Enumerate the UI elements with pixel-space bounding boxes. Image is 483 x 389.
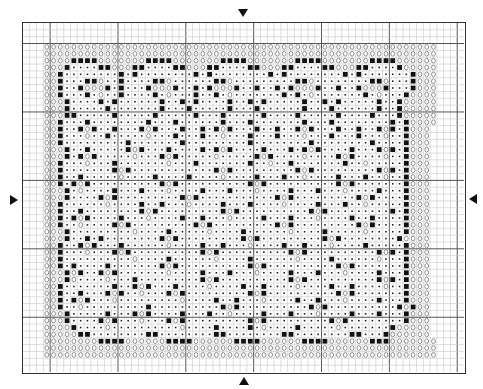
center-marker-bottom-arrow-icon: [239, 377, 249, 385]
center-marker-right-arrow-icon: [469, 194, 477, 204]
center-marker-left-arrow-icon: [10, 195, 18, 205]
stitch-pattern-grid: [22, 22, 466, 374]
pattern-canvas: [23, 23, 464, 372]
center-marker-top-arrow-icon: [238, 9, 248, 17]
